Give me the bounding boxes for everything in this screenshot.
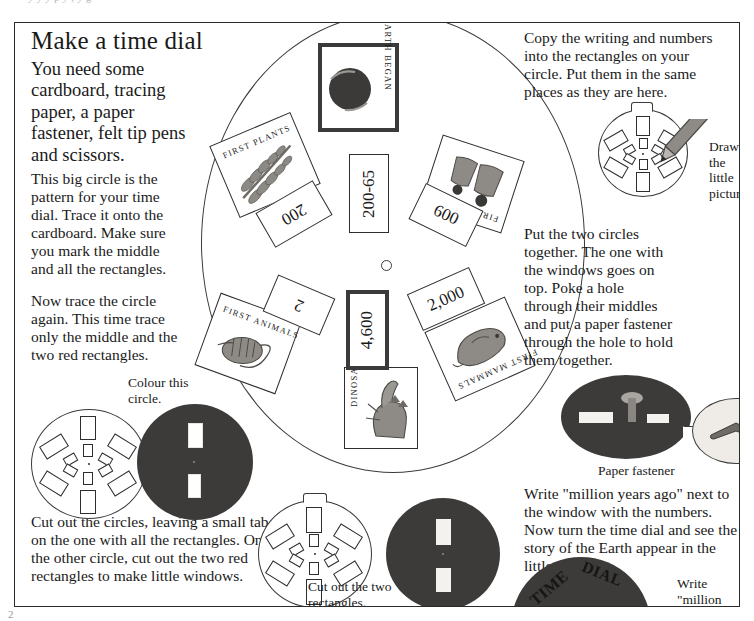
tab-shape-right [631,102,653,112]
coloured-window-circle-left [137,404,253,520]
activity-page-panel: Make a time dial You need some cardboard… [14,22,740,607]
inner-slot-right-low [98,463,114,477]
centre-dot [642,153,644,155]
page-top-bleed-text: y y y p y , y g [0,0,754,14]
slot-lower-left [39,470,69,496]
dinosaur-icon [360,374,416,444]
slot-upper-right [333,523,363,549]
dial-number-value: 600 [430,200,462,229]
window-bottom [436,568,451,592]
materials-paragraph: You need some cardboard, tracing paper, … [31,59,189,166]
second-trace-paragraph: Now trace the circle again. This time tr… [31,292,183,364]
slot-lower-left [265,560,295,586]
inner-slot-bottom [309,562,319,575]
inner-slot-left-low [289,553,305,567]
centre-dot [88,463,90,465]
window-top [436,519,451,545]
slot-bottom [80,490,96,514]
window-bottom [188,474,201,498]
dial-card-label: EARTH BEGAN [383,22,393,91]
dial-number-4600: 4,600 [346,290,389,370]
draw-little-pictures-caption: Draw the little pictures. [709,139,740,202]
cut-two-rectangles-caption: Cut out the two rectangles. [308,579,404,607]
write-million-here-caption: Write "million years ago" here. [677,576,733,607]
slot-top [306,507,322,533]
window-left [579,412,613,423]
circle-centre-hole [381,260,392,271]
window-right [647,414,669,423]
centre-dot [442,553,444,555]
cut-instructions-paragraph: Cut out the circles, leaving a small tab… [31,513,285,585]
put-together-paragraph: Put the two circles together. The one wi… [524,225,674,369]
dial-number-value: 200-65 [359,169,379,217]
dial-number-value: 2 [291,294,307,316]
paper-fastener-caption: Paper fastener [598,463,675,479]
inner-slot-bottom [83,472,93,485]
planet-icon [325,61,375,116]
light-disc-with-opened-fastener [692,398,740,464]
dial-card-dinosaurs: DINOSAURS [344,367,418,449]
slot-upper-right [107,433,137,459]
pattern-paragraph: This big circle is the pattern for your … [31,170,183,278]
dial-card-earth-began: EARTH BEGAN [318,43,399,132]
dial-number-value: 4,600 [358,311,378,349]
inner-slot-left-low [63,463,79,477]
slot-upper-left [265,523,295,549]
page-number: 2 [8,608,14,620]
inner-slot-top [83,444,93,457]
inner-slot-left-low [623,153,637,165]
page-title: Make a time dial [31,27,203,55]
inner-slot-right-low [324,553,340,567]
centre-dot [193,461,195,463]
dark-disc-with-fastener [561,375,691,459]
slot-top [80,416,96,440]
page-top-bleed-text-inner: y y y p y , y g [28,0,92,3]
slot-upper-left [39,433,69,459]
inner-slot-top [309,534,319,547]
dial-number-value: 200 [278,199,310,229]
centre-dot [314,553,316,555]
colour-this-circle-caption: Colour this circle. [128,375,198,407]
copy-writing-paragraph: Copy the writing and numbers into the re… [524,29,731,101]
paper-fastener-icon [617,391,647,425]
dial-number-value: 2,000 [424,282,467,316]
dial-number-200-65: 200-65 [349,154,389,233]
opened-fastener-icon [707,419,740,445]
slot-lower-right [107,470,137,496]
pattern-circle-outline-left [31,409,147,519]
window-top [188,423,203,448]
tab-shape-bottom [303,493,327,503]
